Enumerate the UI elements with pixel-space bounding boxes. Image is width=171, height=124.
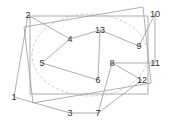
node-label-1: 1 (11, 92, 16, 102)
node-label-2: 2 (25, 10, 30, 20)
outer-frame-rotated (24, 7, 151, 103)
edge-13-6 (98, 30, 100, 80)
edge-13-9 (100, 30, 139, 46)
node-label-5: 5 (39, 58, 44, 68)
inscribed-ellipse (32, 14, 148, 96)
outer-frame-axis-aligned (30, 16, 148, 94)
node-label-3: 3 (67, 108, 72, 118)
node-label-12: 12 (137, 75, 147, 85)
node-label-4: 4 (67, 34, 72, 44)
node-label-8: 8 (109, 58, 114, 68)
edge-group (14, 14, 155, 113)
frame-group (24, 7, 151, 103)
node-label-7: 7 (95, 108, 100, 118)
edge-12-7 (98, 80, 142, 113)
edge-1-2 (14, 15, 28, 97)
edge-8-7 (98, 63, 112, 113)
node-label-9: 9 (136, 41, 141, 51)
node-label-13: 13 (95, 25, 105, 35)
node-label-6: 6 (95, 75, 100, 85)
edge-5-6 (42, 63, 98, 80)
node-label-11: 11 (150, 58, 159, 68)
node-label-10: 10 (150, 9, 160, 19)
edge-3-1 (14, 97, 70, 113)
edge-4-5 (42, 39, 70, 63)
diagram-canvas: 12345678910111213 (0, 0, 171, 124)
